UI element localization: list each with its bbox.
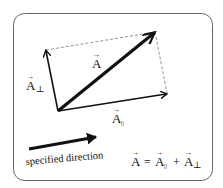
specified-direction-label: specified direction <box>25 149 104 167</box>
svg-text:||: || <box>164 162 167 170</box>
svg-text:→: → <box>184 148 192 157</box>
svg-text:→: → <box>26 72 34 81</box>
label-vector-a-perp: A ⊥ → <box>26 72 44 94</box>
label-vector-a-parallel: A || → <box>112 105 124 127</box>
svg-text:=: = <box>144 155 151 169</box>
specified-direction-arrow <box>29 137 96 149</box>
svg-text:||: || <box>121 119 124 127</box>
vector-a-arrow <box>58 33 154 111</box>
svg-text:→: → <box>92 50 100 59</box>
label-vector-a: A → <box>92 50 102 71</box>
svg-text:→: → <box>155 148 163 157</box>
svg-text:→: → <box>131 148 139 157</box>
vector-a-perp-arrow <box>46 51 58 111</box>
equation: A → = A → || + A → ⊥ <box>131 148 201 170</box>
svg-text:+: + <box>173 155 180 169</box>
dashed-line-right <box>155 32 167 93</box>
svg-text:→: → <box>112 105 120 114</box>
svg-text:⊥: ⊥ <box>36 84 44 94</box>
svg-text:⊥: ⊥ <box>193 160 201 170</box>
vector-diagram: A → A ⊥ → A || → specified direction A →… <box>0 0 223 188</box>
